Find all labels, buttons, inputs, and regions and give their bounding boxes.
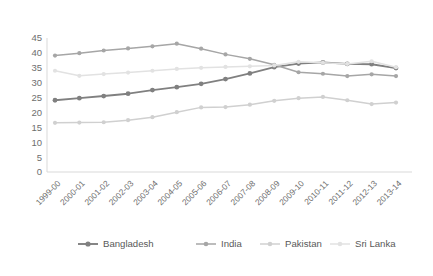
data-point [345, 62, 349, 66]
data-point [53, 121, 57, 125]
series-group [53, 42, 399, 125]
y-axis-tick-label: 15 [31, 122, 42, 133]
legend: BangladeshIndiaPakistanSri Lanka [78, 238, 396, 249]
y-axis-tick-label: 20 [31, 107, 42, 118]
x-axis-tick-label: 2012-13 [350, 178, 379, 207]
data-point [394, 65, 398, 69]
data-point [53, 69, 57, 73]
y-axis-tick-label: 40 [31, 47, 42, 58]
y-axis-tick-label: 25 [31, 92, 42, 103]
legend-swatch-marker [268, 242, 273, 247]
legend-item-label[interactable]: India [221, 238, 242, 249]
x-axis-tick-label: 2006-07 [204, 178, 233, 207]
legend-item-label[interactable]: Sri Lanka [355, 238, 396, 249]
data-point [150, 88, 155, 93]
data-point [175, 42, 179, 46]
data-point [77, 96, 82, 101]
legend-item-label[interactable]: Pakistan [285, 238, 322, 249]
x-axis-tick-label: 2004-05 [155, 178, 184, 207]
data-point [296, 70, 300, 74]
data-point [126, 46, 130, 50]
data-point [53, 98, 58, 103]
data-point [101, 94, 106, 99]
data-point [126, 70, 130, 74]
data-point [370, 59, 374, 63]
legend-item-label[interactable]: Bangladesh [103, 238, 154, 249]
y-axis-tick-label: 0 [37, 166, 42, 177]
x-axis-tick-label: 2001-02 [82, 178, 111, 207]
data-point [53, 53, 57, 57]
data-point [199, 47, 203, 51]
data-point [370, 102, 374, 106]
y-axis-tick-label: 10 [31, 137, 42, 148]
data-point [345, 74, 349, 78]
data-point [321, 95, 325, 99]
data-point [321, 61, 325, 65]
x-axis-tick-label: 2010-11 [302, 178, 331, 207]
data-point [321, 72, 325, 76]
data-point [345, 98, 349, 102]
data-point [296, 60, 300, 64]
series-line [55, 97, 396, 123]
data-point [248, 103, 252, 107]
data-point [223, 105, 227, 109]
y-axis-tick-label: 45 [31, 32, 42, 43]
y-axis-line-group [47, 38, 412, 172]
data-point [296, 96, 300, 100]
data-point [150, 115, 154, 119]
data-point [223, 52, 227, 56]
y-axis-tick-labels: 051015202530354045 [31, 32, 42, 177]
x-axis-tick-label: 2003-04 [131, 178, 160, 207]
x-axis-tick-label: 2011-12 [326, 178, 355, 207]
data-point [199, 66, 203, 70]
data-point [247, 71, 252, 76]
legend-swatch-marker [85, 241, 90, 246]
data-point [77, 51, 81, 55]
data-point [102, 120, 106, 124]
data-point [150, 44, 154, 48]
data-point [126, 118, 130, 122]
data-point [248, 64, 252, 68]
data-point [370, 72, 374, 76]
x-axis-tick-label: 2008-09 [253, 178, 282, 207]
legend-swatch-marker [338, 242, 343, 247]
data-point [394, 101, 398, 105]
data-point [175, 110, 179, 114]
x-axis-tick-label: 2013-14 [375, 178, 404, 207]
data-point [272, 63, 276, 67]
data-point [223, 65, 227, 69]
series-pakistan [53, 95, 398, 125]
data-point [248, 57, 252, 61]
series-line [55, 44, 396, 76]
data-point [102, 48, 106, 52]
data-point [77, 120, 81, 124]
data-point [199, 105, 203, 109]
x-axis-tick-label: 2007-08 [228, 178, 257, 207]
data-point [175, 67, 179, 71]
data-point [126, 91, 131, 96]
x-axis-tick-labels: 1999-002000-012001-022002-032003-042004-… [34, 178, 404, 207]
x-axis-tick-label: 2005-06 [180, 178, 209, 207]
y-axis-tick-label: 5 [37, 152, 42, 163]
y-axis-tick-label: 30 [31, 77, 42, 88]
data-point [150, 69, 154, 73]
line-chart: 051015202530354045 1999-002000-012001-02… [0, 0, 433, 276]
data-point [394, 74, 398, 78]
x-axis-tick-label: 2002-03 [107, 178, 136, 207]
data-point [223, 77, 228, 82]
y-axis-tick-label: 35 [31, 62, 42, 73]
data-point [174, 85, 179, 90]
x-axis-tick-label: 1999-00 [34, 178, 63, 207]
x-axis-tick-label: 2000-01 [58, 178, 87, 207]
chart-canvas: 051015202530354045 1999-002000-012001-02… [0, 0, 433, 276]
legend-swatch-marker [204, 242, 209, 247]
data-point [272, 99, 276, 103]
x-axis-tick-label: 2009-10 [277, 178, 306, 207]
data-point [102, 72, 106, 76]
data-point [199, 81, 204, 86]
data-point [77, 74, 81, 78]
